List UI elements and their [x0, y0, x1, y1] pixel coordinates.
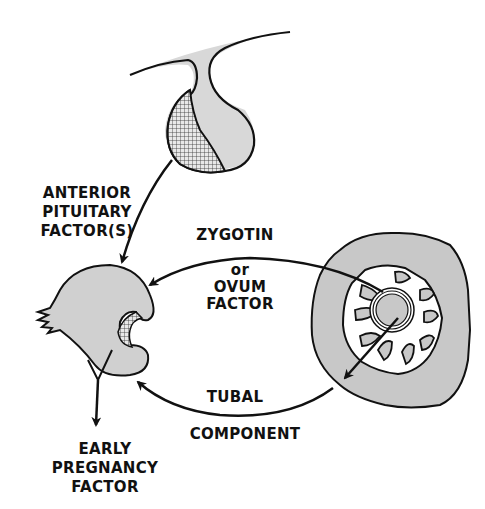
label-line: OVUM [205, 279, 275, 296]
label-line: PITUITARY [32, 203, 142, 222]
label-line: EARLY [45, 440, 165, 459]
label-line: PREGNANCY [45, 459, 165, 478]
arrow-ovary-to-epf [96, 380, 98, 425]
diagram-canvas: ANTERIOR PITUITARY FACTOR(S) ZYGOTIN or … [0, 0, 485, 509]
label-early-pregnancy-factor: EARLY PREGNANCY FACTOR [45, 440, 165, 497]
label-tubal: TUBAL [200, 388, 270, 407]
label-zygotin-title: ZYGOTIN [190, 226, 280, 245]
label-anterior-pituitary: ANTERIOR PITUITARY FACTOR(S) [32, 184, 142, 241]
label-line: ANTERIOR [32, 184, 142, 203]
pituitary-gland [130, 32, 290, 172]
label-component: COMPONENT [180, 425, 310, 444]
ovary [38, 265, 154, 376]
label-line: or [205, 262, 275, 279]
label-zygotin-sub: or OVUM FACTOR [205, 262, 275, 313]
oviduct-cross-section [312, 233, 470, 408]
label-line: FACTOR [45, 478, 165, 497]
label-line: FACTOR [205, 296, 275, 313]
label-line: FACTOR(S) [32, 222, 142, 241]
